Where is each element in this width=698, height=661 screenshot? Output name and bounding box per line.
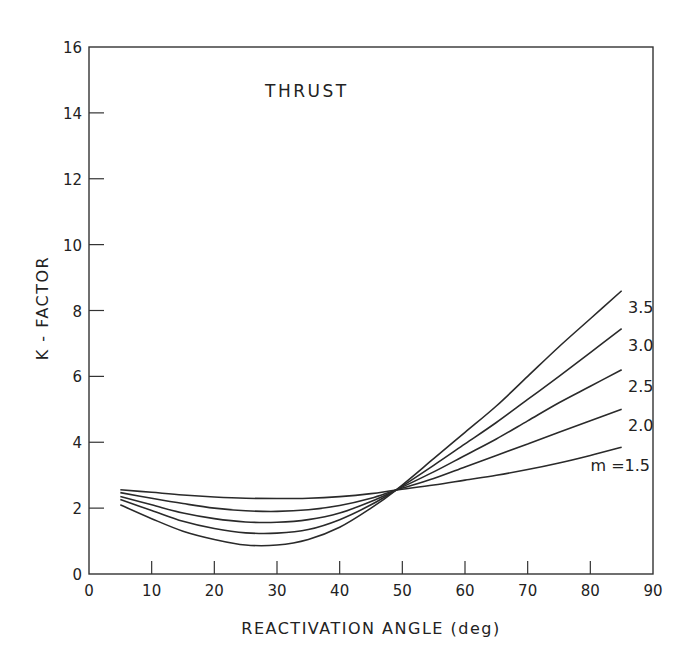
curve-m-1.5 [120,447,621,498]
curve-m-3.5 [120,291,621,546]
y-tick-label: 0 [72,566,82,584]
y-tick-label: 6 [72,368,82,386]
y-tick-label: 2 [72,500,82,518]
curve-m-2.5 [120,370,621,523]
y-axis-title: K - FACTOR [33,256,52,361]
x-axis-ticks: 0102030405060708090 [84,561,662,600]
curve-label: 2.5 [628,377,653,396]
curve-label: m =1.5 [590,456,650,475]
y-axis-ticks: 0246810121416 [63,39,104,584]
curve-label: 3.5 [628,298,653,317]
x-tick-label: 20 [205,582,224,600]
y-tick-label: 8 [72,303,82,321]
curve-label: 3.0 [628,336,653,355]
y-tick-label: 4 [72,434,82,452]
y-tick-label: 16 [63,39,82,57]
x-tick-label: 60 [455,582,474,600]
x-tick-label: 90 [643,582,662,600]
x-axis-title: REACTIVATION ANGLE (deg) [241,619,500,638]
x-tick-label: 50 [393,582,412,600]
y-tick-label: 10 [63,237,82,255]
chart: 0102030405060708090 0246810121416 m =1.5… [0,0,698,661]
x-tick-label: 10 [142,582,161,600]
x-tick-label: 80 [581,582,600,600]
chart-title: THRUST [264,81,349,101]
y-tick-label: 12 [63,171,82,189]
curve-label: 2.0 [628,416,653,435]
y-tick-label: 14 [63,105,82,123]
curves: m =1.52.02.53.03.5 [120,291,653,546]
x-tick-label: 40 [330,582,349,600]
x-tick-label: 70 [518,582,537,600]
x-tick-label: 0 [84,582,94,600]
x-tick-label: 30 [267,582,286,600]
